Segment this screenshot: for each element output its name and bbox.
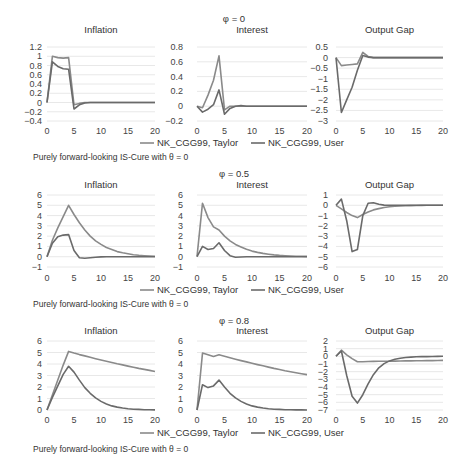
x-tick-label: 20	[150, 126, 160, 136]
y-tick-label: −1	[173, 262, 183, 272]
x-tick-label: 10	[384, 415, 394, 425]
x-tick-label: 20	[150, 273, 160, 283]
panel-title: Interest	[236, 325, 268, 336]
y-tick-label: −0.2	[165, 116, 183, 126]
x-tick-label: 0	[44, 126, 49, 136]
legend-label-taylor: NK_CGG99, Taylor	[157, 284, 238, 295]
y-tick-label: 0.5	[315, 42, 328, 52]
series-line-user	[197, 243, 307, 257]
y-tick-label: 5	[37, 200, 42, 210]
x-tick-label: 20	[150, 415, 160, 425]
y-tick-label: 0	[178, 405, 183, 415]
y-tick-label: 1	[323, 190, 328, 200]
y-tick-label: 0.6	[170, 57, 183, 67]
y-tick-label: −1	[318, 211, 328, 221]
y-tick-label: 6	[178, 190, 183, 200]
x-tick-label: 0	[333, 126, 338, 136]
y-tick-label: 0	[178, 101, 183, 111]
x-tick-label: 15	[274, 415, 284, 425]
y-tick-label: 6	[37, 190, 42, 200]
x-tick-label: 0	[333, 415, 338, 425]
y-tick-label: 3	[178, 371, 183, 381]
x-tick-label: 15	[411, 273, 421, 283]
chart-group: φ = 0.5Inflation6543210−105101520Interes…	[32, 168, 448, 309]
legend-label-user: NK_CGG99, User	[268, 284, 344, 295]
panel-inflation: Inflation654321005101520	[37, 325, 160, 425]
y-tick-label: −2	[318, 221, 328, 231]
x-tick-label: 10	[247, 415, 257, 425]
y-tick-label: 6	[37, 336, 42, 346]
series-line-taylor	[47, 205, 155, 256]
series-line-taylor	[336, 52, 443, 65]
x-tick-label: 10	[384, 273, 394, 283]
x-tick-label: 10	[247, 126, 257, 136]
y-tick-label: 1	[37, 241, 42, 251]
caption-note: Purely forward-looking IS-Cure with θ = …	[33, 299, 188, 309]
x-tick-label: 10	[96, 273, 106, 283]
y-tick-label: 4	[178, 211, 183, 221]
x-tick-label: 20	[302, 126, 312, 136]
x-tick-label: 5	[222, 415, 227, 425]
y-tick-label: −2.5	[310, 105, 328, 115]
x-tick-label: 10	[384, 126, 394, 136]
y-tick-label: −1	[318, 74, 328, 84]
x-tick-label: 5	[360, 273, 365, 283]
x-tick-label: 5	[71, 126, 76, 136]
legend-label-taylor: NK_CGG99, Taylor	[157, 427, 238, 438]
x-tick-label: 20	[438, 273, 448, 283]
panel-interest: Interest6543210−105101520	[173, 179, 312, 283]
x-tick-label: 20	[302, 415, 312, 425]
x-tick-label: 5	[71, 415, 76, 425]
x-tick-label: 0	[44, 273, 49, 283]
x-tick-label: 10	[96, 126, 106, 136]
x-tick-label: 5	[71, 273, 76, 283]
y-tick-label: 0	[37, 405, 42, 415]
x-tick-label: 5	[360, 126, 365, 136]
group-title: φ = 0	[223, 13, 245, 24]
y-tick-label: 2	[37, 231, 42, 241]
series-line-taylor	[47, 56, 155, 105]
caption-note: Purely forward-looking IS-Cure with θ = …	[33, 444, 188, 454]
panel-title: Inflation	[84, 179, 117, 190]
y-tick-label: 3	[178, 221, 183, 231]
y-tick-label: 5	[178, 348, 183, 358]
x-tick-label: 15	[123, 126, 133, 136]
legend: NK_CGG99, TaylorNK_CGG99, User	[140, 284, 344, 295]
legend-label-user: NK_CGG99, User	[268, 427, 344, 438]
x-tick-label: 5	[360, 415, 365, 425]
x-tick-label: 0	[333, 273, 338, 283]
panel-interest: Interest654321005101520	[178, 325, 312, 425]
y-tick-label: 0	[178, 252, 183, 262]
y-tick-label: 0	[323, 53, 328, 63]
y-tick-label: 1	[178, 394, 183, 404]
x-tick-label: 20	[438, 415, 448, 425]
panel-title: Inflation	[84, 325, 117, 336]
y-tick-label: 0	[323, 200, 328, 210]
x-tick-label: 0	[194, 126, 199, 136]
x-tick-label: 0	[44, 415, 49, 425]
x-tick-label: 10	[96, 415, 106, 425]
y-tick-label: −4	[318, 241, 328, 251]
y-tick-label: −1	[32, 262, 42, 272]
x-tick-label: 5	[222, 273, 227, 283]
x-tick-label: 15	[411, 415, 421, 425]
x-tick-label: 15	[123, 273, 133, 283]
y-tick-label: 2	[178, 231, 183, 241]
panel-output-gap: Output Gap10−1−2−3−4−5−605101520	[318, 179, 448, 283]
panel-title: Interest	[236, 179, 268, 190]
y-tick-label: −6	[318, 262, 328, 272]
y-tick-label: 2	[178, 382, 183, 392]
series-line-user	[47, 62, 155, 109]
series-line-taylor	[197, 56, 307, 110]
group-title: φ = 0.5	[219, 168, 249, 179]
y-tick-label: −1.5	[310, 84, 328, 94]
x-tick-label: 5	[222, 126, 227, 136]
y-tick-label: 0.2	[170, 86, 183, 96]
panel-title: Output Gap	[365, 24, 414, 35]
y-tick-label: 0.4	[170, 72, 183, 82]
panel-interest: Interest0.80.60.40.20−0.205101520	[165, 24, 312, 136]
x-tick-label: 15	[274, 273, 284, 283]
y-tick-label: 6	[178, 336, 183, 346]
y-tick-label: 4	[178, 359, 183, 369]
impulse-response-figure: φ = 0Inflation1.210.80.60.40.20−0.2−0.40…	[0, 0, 468, 460]
